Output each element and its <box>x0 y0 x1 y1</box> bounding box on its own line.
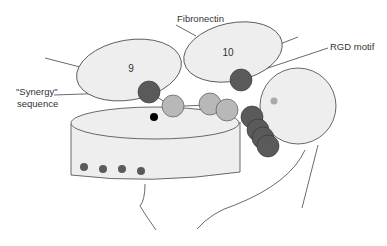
alpha-stalk <box>140 184 156 230</box>
fibronectin-label-line <box>176 25 196 36</box>
beta-stalk-2 <box>302 145 318 208</box>
rgd-motif-bead <box>230 69 252 91</box>
fibronectin-integrin-diagram: 9 10 Fibronectin RGD <box>0 0 387 246</box>
fibronectin-label: Fibronectin <box>177 13 224 24</box>
domain9-tail-line <box>45 58 80 67</box>
synergy-sequence-bead <box>138 81 160 103</box>
light-bead-3 <box>216 99 238 121</box>
domain-10-label: 10 <box>222 47 234 58</box>
rgd-motif-label: RGD motif <box>330 41 375 52</box>
domain-9-label: 9 <box>128 63 134 74</box>
metal-ion-dot <box>150 113 158 121</box>
beta-head-dot <box>271 98 278 105</box>
synergy-label-line1: "Synergy" <box>16 86 58 97</box>
light-bead-1 <box>162 95 184 117</box>
synergy-label-line2: sequence <box>17 98 58 109</box>
domain10-tail-line <box>280 37 298 44</box>
